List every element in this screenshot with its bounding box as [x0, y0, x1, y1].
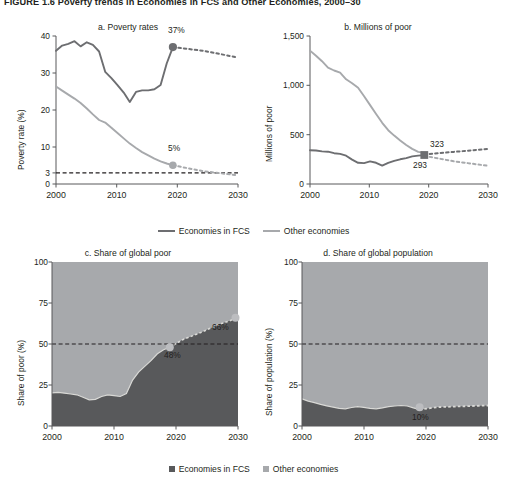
panel-a-ytick-3: 3 — [26, 168, 50, 178]
panel-a-xtick-2020: 2020 — [168, 190, 188, 200]
panel-c-xtick-2000: 2000 — [42, 432, 62, 442]
legend-item-fcs-line: Economies in FCS — [158, 226, 250, 236]
legend-label-fcs-area: Economies in FCS — [179, 464, 250, 474]
panel-a-axes — [56, 36, 238, 184]
panel-c-annotation-66: 66% — [212, 322, 229, 332]
panel-b-marker-fcs — [420, 151, 428, 159]
panel-a-ytick-30: 30 — [26, 68, 50, 78]
panel-c-xtick-2020: 2020 — [166, 432, 186, 442]
line-swatch-icon — [263, 230, 280, 232]
legend-label-other-area: Other economies — [273, 464, 338, 474]
panel-c-xtick-2010: 2010 — [104, 432, 124, 442]
panel-a-svg — [56, 36, 238, 184]
panel-d-marker-2019 — [416, 403, 424, 411]
panel-b-series-other — [310, 51, 424, 153]
panel-d-xtick-2030: 2030 — [478, 432, 498, 442]
panel-a-xticks — [56, 184, 238, 188]
figure-title: FIGURE 1.6 Poverty trends in Economies i… — [0, 0, 507, 9]
panel-a-annotation-37: 37% — [168, 25, 185, 35]
panel-b-plot: 323 293 — [310, 36, 488, 184]
panel-d-ytick-25: 25 — [270, 380, 298, 390]
panel-d-annotation-10: 10% — [412, 412, 429, 422]
panel-b-projection-fcs — [424, 149, 488, 155]
panel-d-ytick-50: 50 — [270, 339, 298, 349]
legend-label-other: Other economies — [284, 226, 349, 236]
panel-a-xtick-2030: 2030 — [228, 190, 248, 200]
panel-c-ytick-100: 100 — [20, 257, 48, 267]
panel-a-projection-other — [173, 165, 238, 175]
panel-d-svg — [302, 262, 488, 426]
panel-d-xtick-2010: 2010 — [354, 432, 374, 442]
panel-c-ylabel: Share of poor (%) — [16, 340, 26, 406]
panel-a-marker-fcs — [169, 43, 177, 51]
panel-a-series-fcs — [56, 41, 173, 102]
panel-c-xtick-2030: 2030 — [228, 432, 248, 442]
panel-c-ytick-50: 50 — [20, 339, 48, 349]
panel-c-svg — [52, 262, 238, 426]
panel-b-ytick-1000: 1,000 — [270, 80, 304, 90]
panel-d-xticks — [302, 426, 488, 430]
panel-d-ytick-0: 0 — [270, 421, 298, 431]
panel-a-xtick-2000: 2000 — [46, 190, 66, 200]
panel-b-xtick-2000: 2000 — [300, 190, 320, 200]
legend-item-fcs-area: Economies in FCS — [169, 464, 250, 474]
panel-b-xtick-2020: 2020 — [419, 190, 439, 200]
panel-c-plot: 48% 66% — [52, 262, 238, 426]
panel-d-share-of-global-population: d. Share of global population Share of p… — [258, 248, 498, 460]
panel-b-axes — [310, 36, 488, 184]
line-swatch-icon — [158, 230, 175, 232]
panel-a-marker-other — [169, 162, 177, 170]
panel-c-annotation-48: 48% — [164, 350, 181, 360]
panel-a-projection-fcs — [173, 47, 238, 57]
panel-d-ytick-75: 75 — [270, 298, 298, 308]
panel-c-share-of-global-poor: c. Share of global poor Share of poor (%… — [8, 248, 248, 460]
panel-b-xticks — [310, 184, 488, 188]
panel-a-ylabel: Poverty rate (%) — [16, 109, 26, 170]
panel-b-ytick-500: 500 — [270, 130, 304, 140]
panel-c-yticks — [49, 262, 53, 426]
panel-a-ytick-10: 10 — [26, 142, 50, 152]
square-swatch-icon — [263, 466, 269, 472]
panel-b-ytick-0: 0 — [270, 179, 304, 189]
panel-d-xtick-2020: 2020 — [416, 432, 436, 442]
panel-a-ytick-0: 0 — [26, 179, 50, 189]
panel-c-ytick-75: 75 — [20, 298, 48, 308]
panel-c-xticks — [52, 426, 238, 430]
legend-areas: Economies in FCS Other economies — [0, 464, 507, 474]
panel-d-xtick-2000: 2000 — [292, 432, 312, 442]
panel-b-xtick-2010: 2010 — [360, 190, 380, 200]
panel-c-ytick-0: 0 — [20, 421, 48, 431]
panel-b-annotation-293: 293 — [413, 160, 427, 170]
square-swatch-icon — [169, 466, 175, 472]
panel-b-yticks — [307, 36, 311, 184]
panel-a-poverty-rates: a. Poverty rates Poverty rate (%) — [8, 22, 248, 212]
panel-b-series-fcs — [310, 150, 424, 165]
panel-a-yticks — [53, 36, 57, 184]
legend-label-fcs: Economies in FCS — [179, 226, 250, 236]
panel-b-millions-of-poor: b. Millions of poor Millions of poor — [258, 22, 498, 212]
panel-a-annotation-5: 5% — [168, 143, 180, 153]
panel-b-svg — [310, 36, 488, 184]
panel-b-projection-other — [424, 156, 488, 166]
panel-b-xtick-2030: 2030 — [478, 190, 498, 200]
legend-item-other-line: Other economies — [263, 226, 349, 236]
panel-d-yticks — [299, 262, 303, 426]
panel-b-ytick-1500: 1,500 — [270, 31, 304, 41]
panel-c-ytick-25: 25 — [20, 380, 48, 390]
panel-a-ytick-40: 40 — [26, 31, 50, 41]
panel-d-plot: 10% — [302, 262, 488, 426]
panel-c-marker-2030 — [232, 314, 240, 322]
panel-a-ytick-20: 20 — [26, 105, 50, 115]
legend-lines: Economies in FCS Other economies — [0, 226, 507, 236]
panel-d-ytick-100: 100 — [270, 257, 298, 267]
panel-a-plot: 37% 5% — [56, 36, 238, 184]
legend-item-other-area: Other economies — [263, 464, 338, 474]
panel-a-xtick-2010: 2010 — [107, 190, 127, 200]
panel-a-series-other — [56, 87, 173, 166]
panel-b-annotation-323: 323 — [430, 139, 444, 149]
